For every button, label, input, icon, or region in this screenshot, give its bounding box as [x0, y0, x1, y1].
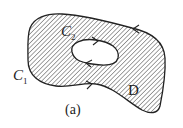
label-c1: C1 [13, 68, 28, 86]
label-c2: C2 [61, 24, 76, 42]
label-region-d: D [128, 83, 139, 98]
region-diagram [0, 0, 183, 128]
figure-caption: (a) [65, 103, 81, 117]
